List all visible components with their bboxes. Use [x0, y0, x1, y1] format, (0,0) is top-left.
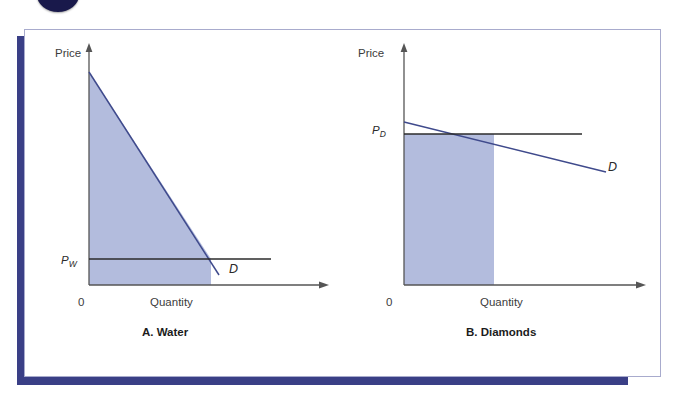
panel-a-price-tick-subscript: W — [69, 259, 77, 269]
panel-b-demand-label: D — [608, 160, 617, 174]
panel-a-shaded-region — [89, 72, 211, 285]
panel-a-price-tick-letter: P — [61, 254, 69, 266]
panel-a-x-axis-label: Quantity — [150, 296, 193, 308]
panel-b-y-axis-arrow — [401, 43, 408, 52]
panel-b-shaded-region — [404, 134, 494, 285]
panel-a-caption: A. Water — [142, 326, 188, 338]
panel-b-caption: B. Diamonds — [466, 326, 536, 338]
panel-b-price-tick-subscript: D — [380, 129, 386, 139]
panel-a-price-tick-label: PW — [61, 254, 77, 269]
panel-b-origin-label: 0 — [386, 296, 392, 308]
panel-b-price-tick-letter: P — [372, 124, 380, 136]
chart-canvas — [0, 0, 683, 399]
panel-a-y-axis-label: Price — [55, 47, 81, 59]
panel-b-y-axis-label: Price — [358, 47, 384, 59]
panel-a-origin-label: 0 — [78, 296, 84, 308]
panel-b-x-axis-arrow — [636, 281, 646, 288]
panel-a-demand-label: D — [229, 262, 238, 276]
panel-a-x-axis-arrow — [319, 281, 329, 288]
panel-b-price-tick-label: PD — [372, 124, 386, 139]
panel-b-x-axis-label: Quantity — [480, 296, 523, 308]
panel-a-y-axis-arrow — [86, 43, 93, 52]
